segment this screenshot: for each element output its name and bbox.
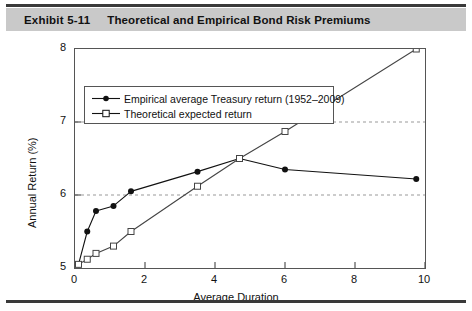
data-point-theoretical-1 (84, 256, 90, 262)
x-tick-label-8: 8 (342, 273, 366, 285)
y-tick-label-7: 7 (44, 114, 66, 126)
data-point-empirical-8 (413, 176, 419, 182)
y-tick-label-5: 5 (44, 260, 66, 272)
data-point-theoretical-3 (111, 243, 117, 249)
legend-key-filled-circle-icon (91, 92, 121, 105)
exhibit-number: Exhibit 5-11 (24, 14, 90, 26)
plot-area (74, 48, 426, 269)
y-tick-label-6: 6 (44, 187, 66, 199)
chart-svg (75, 49, 425, 268)
legend-item-theoretical: Theoretical expected return (91, 106, 327, 121)
data-point-empirical-2 (93, 208, 99, 214)
x-tick-label-2: 2 (132, 273, 156, 285)
legend-label-empirical: Empirical average Treasury return (1952–… (124, 93, 345, 105)
chart-figure: Annual Return (%) 8 7 6 5 0 2 4 6 8 10 A… (0, 33, 472, 285)
data-point-empirical-1 (84, 229, 90, 235)
exhibit-title-bar: Exhibit 5-11 Theoretical and Empirical B… (6, 8, 466, 31)
x-tick-label-10: 10 (412, 273, 436, 285)
data-point-theoretical-4 (128, 229, 134, 235)
legend-label-theoretical: Theoretical expected return (124, 108, 252, 120)
title-top-rule (6, 4, 466, 7)
data-point-theoretical-8 (413, 49, 419, 52)
data-point-theoretical-6 (237, 156, 243, 162)
series-line-empirical (79, 159, 417, 265)
data-point-empirical-4 (128, 188, 134, 194)
legend-key-open-square-icon (91, 107, 121, 120)
data-point-theoretical-0 (76, 261, 82, 267)
y-tick-label-8: 8 (44, 41, 66, 53)
x-tick-label-4: 4 (202, 273, 226, 285)
x-tick-label-6: 6 (272, 273, 296, 285)
data-point-empirical-7 (282, 166, 288, 172)
exhibit-title: Theoretical and Empirical Bond Risk Prem… (107, 14, 370, 26)
data-point-theoretical-7 (282, 128, 288, 134)
legend-item-empirical: Empirical average Treasury return (1952–… (91, 91, 327, 106)
data-point-empirical-5 (195, 169, 201, 175)
data-point-theoretical-5 (195, 183, 201, 189)
exhibit-figure: Exhibit 5-11 Theoretical and Empirical B… (0, 0, 472, 311)
bottom-rule (6, 300, 466, 303)
data-point-empirical-3 (111, 203, 117, 209)
data-point-theoretical-2 (93, 250, 99, 256)
y-axis-label: Annual Return (%) (26, 138, 38, 229)
x-tick-label-0: 0 (62, 273, 86, 285)
chart-legend: Empirical average Treasury return (1952–… (84, 86, 334, 124)
